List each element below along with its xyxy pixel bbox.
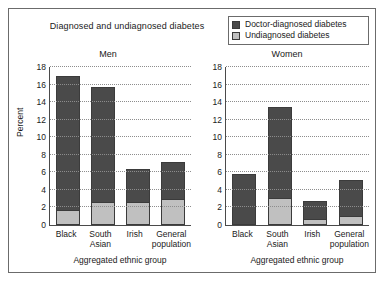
y-tick-label: 10: [213, 132, 222, 142]
gridline: 10: [50, 136, 191, 137]
bar-general-population[interactable]: [339, 67, 363, 225]
gridline: 14: [50, 101, 191, 102]
gridline: 18: [226, 66, 369, 67]
segment-diagnosed: [233, 175, 255, 224]
x-axis-title-women: Aggregated ethnic group: [225, 255, 369, 265]
gridline: 4: [50, 189, 191, 190]
segment-undiagnosed: [304, 219, 326, 224]
panel-title-women: Women: [199, 49, 375, 59]
segment-undiagnosed: [57, 210, 79, 224]
x-axis-title-men: Aggregated ethnic group: [49, 255, 191, 265]
bar-south-asian[interactable]: [91, 67, 115, 225]
y-tick-label: 8: [41, 150, 46, 160]
legend-item-diagnosed: Doctor-diagnosed diabetes: [232, 19, 365, 30]
y-tick-label: 4: [41, 185, 46, 195]
y-tick-label: 0: [217, 220, 222, 230]
segment-undiagnosed: [162, 199, 184, 224]
segment-diagnosed: [340, 181, 362, 216]
bar-group-women: [226, 67, 369, 225]
x-tick-label: Generalpopulation: [330, 229, 369, 249]
y-tick-label: 2: [41, 202, 46, 212]
gridline: 2: [226, 206, 369, 207]
x-tick-label: Black: [49, 229, 83, 249]
legend-label-undiagnosed: Undiagnosed diabetes: [245, 30, 330, 41]
gridline: 16: [50, 84, 191, 85]
y-tick-label: 10: [37, 132, 46, 142]
bar-general-population[interactable]: [161, 67, 185, 225]
gridline: 10: [226, 136, 369, 137]
x-tick-label: Irish: [295, 229, 330, 249]
bar-black[interactable]: [232, 67, 256, 225]
segment-diagnosed: [304, 202, 326, 219]
y-tick-label: 18: [213, 62, 222, 72]
plot-area-men: 181614121086420: [49, 67, 191, 226]
gridline: 18: [50, 66, 191, 67]
gridline: 12: [226, 119, 369, 120]
legend: Doctor-diagnosed diabetes Undiagnosed di…: [228, 16, 369, 45]
y-tick-label: 4: [217, 185, 222, 195]
legend-swatch-undiagnosed: [232, 32, 240, 40]
gridline: 8: [226, 154, 369, 155]
x-tick-label: Generalpopulation: [152, 229, 191, 249]
x-tick-labels-women: BlackSouthAsianIrishGeneralpopulation: [225, 229, 369, 249]
plot-area-women: 181614121086420: [225, 67, 369, 226]
legend-label-diagnosed: Doctor-diagnosed diabetes: [245, 19, 347, 30]
x-tick-label: SouthAsian: [83, 229, 117, 249]
legend-swatch-diagnosed: [232, 21, 240, 29]
segment-diagnosed: [127, 170, 149, 202]
y-tick-label: 8: [217, 150, 222, 160]
y-tick-label: 14: [213, 97, 222, 107]
bar-black[interactable]: [56, 67, 80, 225]
y-tick-label: 16: [37, 80, 46, 90]
segment-undiagnosed: [92, 202, 114, 224]
y-tick-label: 6: [217, 167, 222, 177]
y-tick-label: 6: [41, 167, 46, 177]
x-tick-labels-men: BlackSouthAsianIrishGeneralpopulation: [49, 229, 191, 249]
gridline: 12: [50, 119, 191, 120]
gridline: 4: [226, 189, 369, 190]
gridline: 16: [226, 84, 369, 85]
segment-undiagnosed: [269, 198, 291, 224]
gridline: 6: [226, 171, 369, 172]
bar-irish[interactable]: [126, 67, 150, 225]
x-tick-label: Irish: [118, 229, 152, 249]
segment-diagnosed: [57, 77, 79, 210]
gridline: 6: [50, 171, 191, 172]
x-tick-label: SouthAsian: [260, 229, 295, 249]
chart-panel-women: Women 181614121086420 BlackSouthAsianIri…: [199, 49, 375, 267]
x-tick-label: Black: [225, 229, 260, 249]
legend-item-undiagnosed: Undiagnosed diabetes: [232, 30, 365, 41]
panel-title-men: Men: [19, 49, 197, 59]
segment-diagnosed: [162, 163, 184, 199]
gridline: 14: [226, 101, 369, 102]
y-tick-label: 0: [41, 220, 46, 230]
figure-frame: Diagnosed and undiagnosed diabetes Docto…: [8, 8, 376, 273]
segment-undiagnosed: [127, 202, 149, 224]
gridline: 8: [50, 154, 191, 155]
y-tick-label: 14: [37, 97, 46, 107]
figure-title: Diagnosed and undiagnosed diabetes: [27, 21, 227, 31]
bar-south-asian[interactable]: [268, 67, 292, 225]
y-tick-label: 12: [37, 115, 46, 125]
bar-irish[interactable]: [303, 67, 327, 225]
y-tick-label: 12: [213, 115, 222, 125]
gridline: 2: [50, 206, 191, 207]
segment-diagnosed: [92, 88, 114, 201]
bar-group-men: [50, 67, 191, 225]
y-tick-label: 18: [37, 62, 46, 72]
chart-panel-men: Men 181614121086420 BlackSouthAsianIrish…: [19, 49, 197, 267]
y-tick-label: 16: [213, 80, 222, 90]
y-tick-label: 2: [217, 202, 222, 212]
segment-undiagnosed: [340, 216, 362, 224]
